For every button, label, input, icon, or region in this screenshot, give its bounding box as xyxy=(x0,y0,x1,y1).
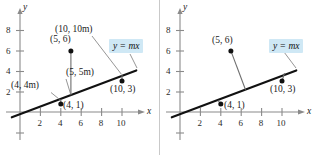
annotation-label-10-10m: (10, 10m) xyxy=(55,25,92,35)
x-axis-label: x xyxy=(147,107,151,117)
x-tick-2: 2 xyxy=(198,119,203,128)
y-axis-label: y xyxy=(183,3,187,13)
annotation-label-5-5m: (5, 5m) xyxy=(66,68,94,78)
x-tick-4: 4 xyxy=(218,119,223,128)
left-panel: y x 8 6 4 2 2 4 6 8 10 (5, 6) (4, 1) (10… xyxy=(0,0,159,155)
y-tick-6: 6 xyxy=(166,47,171,56)
right-panel-plot xyxy=(160,0,319,155)
x-tick-4: 4 xyxy=(58,119,63,128)
annotation-label-4-4m: (4, 4m) xyxy=(11,81,39,91)
y-tick-2: 2 xyxy=(6,88,11,97)
point-label-10-3: (10, 3) xyxy=(270,85,295,95)
y-tick-8: 8 xyxy=(166,26,171,35)
data-points xyxy=(218,48,284,106)
x-tick-10: 10 xyxy=(117,119,126,128)
y-tick-6: 6 xyxy=(6,47,11,56)
y-tick-8: 8 xyxy=(6,26,11,35)
x-tick-8: 8 xyxy=(99,119,104,128)
y-axis-label: y xyxy=(23,3,27,13)
point-5-6 xyxy=(228,48,233,53)
point-label-5-6: (5, 6) xyxy=(212,36,233,46)
x-tick-8: 8 xyxy=(259,119,264,128)
point-10-3 xyxy=(280,79,285,84)
y-tick-4: 4 xyxy=(166,67,171,76)
point-label-10-3: (10, 3) xyxy=(110,85,135,95)
figure-container: y x 8 6 4 2 2 4 6 8 10 (5, 6) (4, 1) (10… xyxy=(0,0,319,155)
point-label-4-1: (4, 1) xyxy=(224,101,245,111)
point-5-6 xyxy=(68,48,73,53)
x-tick-6: 6 xyxy=(78,119,83,128)
x-tick-2: 2 xyxy=(38,119,43,128)
y-tick-2: 2 xyxy=(166,88,171,97)
x-axis-label: x xyxy=(307,107,311,117)
x-tick-10: 10 xyxy=(277,119,286,128)
point-4-1 xyxy=(218,102,223,107)
point-label-4-1: (4, 1) xyxy=(63,101,84,111)
point-10-3 xyxy=(120,79,125,84)
line-equation-label: y = mx xyxy=(109,39,143,53)
point-label-5-6: (5, 6) xyxy=(50,35,71,45)
y-tick-4: 4 xyxy=(6,67,11,76)
right-panel: y x 8 6 4 2 2 4 6 8 10 (5, 6) (4, 1) (10… xyxy=(160,0,319,155)
annotation-leaders xyxy=(284,52,296,68)
x-tick-6: 6 xyxy=(238,119,243,128)
line-equation-label: y = mx xyxy=(269,39,303,53)
